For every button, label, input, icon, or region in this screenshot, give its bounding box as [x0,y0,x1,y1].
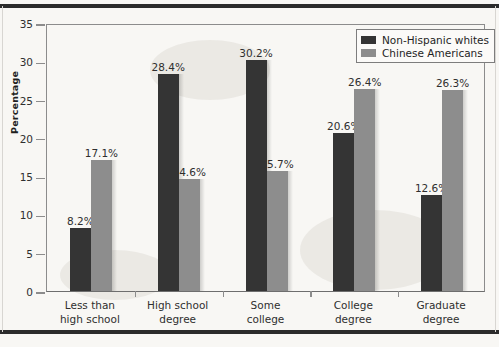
y-axis-tick [36,216,45,217]
legend-item-label: Chinese Americans [382,47,483,59]
bar-group [70,25,112,291]
legend-item: Chinese Americans [361,46,489,59]
plot-area: 05101520253035 8.2%17.1%28.4%14.6%30.2%1… [46,24,485,292]
y-axis-tick [36,63,45,64]
y-axis-tick-label: 5 [7,249,33,260]
bar [267,171,288,291]
y-axis-tick-label: 0 [7,287,33,298]
figure-container: Percentage 05101520253035 8.2%17.1%28.4%… [0,0,499,347]
x-axis-tick [135,291,136,297]
y-axis-tick-label: 10 [7,210,33,221]
y-axis-tick [36,178,45,179]
y-axis-tick [36,101,45,102]
x-axis-category-label: Graduatedegree [386,299,496,326]
y-axis-tick-label: 20 [7,134,33,145]
bar-group [158,25,200,291]
bar [179,179,200,291]
right-edge-line [495,6,496,332]
y-axis-tick [36,24,45,25]
legend-swatch-icon [361,49,376,57]
left-edge-line [2,6,3,332]
bottom-rule [0,330,499,334]
y-axis-tick-label: 35 [7,19,33,30]
y-axis-tick-label: 25 [7,96,33,107]
chart-legend: Non-Hispanic whitesChinese Americans [356,29,495,63]
bar [91,160,112,291]
bar [70,228,91,291]
y-axis-tick [36,292,45,293]
top-rule [0,4,499,8]
bar [246,60,267,291]
bar [442,90,463,291]
x-axis-tick [223,291,224,297]
y-axis-tick-label: 15 [7,172,33,183]
y-axis-tick [36,139,45,140]
bar [421,195,442,291]
bar-group [333,25,375,291]
x-axis-category-line: Graduate [386,299,496,313]
bar [354,89,375,291]
bars-layer: 8.2%17.1%28.4%14.6%30.2%15.7%20.6%26.4%1… [47,25,484,291]
y-axis-tick [36,254,45,255]
legend-item-label: Non-Hispanic whites [382,34,489,46]
bar-group [246,25,288,291]
y-axis-tick-label: 30 [7,57,33,68]
x-axis-tick [310,291,311,297]
x-axis-tick [398,291,399,297]
legend-item: Non-Hispanic whites [361,33,489,46]
bar [333,133,354,291]
bar [158,74,179,291]
bar-group [421,25,463,291]
x-axis-category-line: degree [386,313,496,327]
legend-swatch-icon [361,36,376,44]
